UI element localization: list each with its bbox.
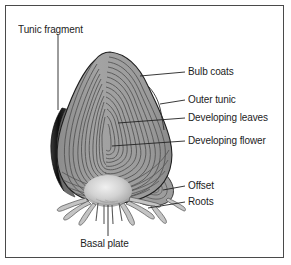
label-developing-leaves: Developing leaves [188,112,268,123]
label-roots: Roots [188,196,214,207]
label-tunic-fragment: Tunic fragment [18,24,83,35]
label-outer-tunic: Outer tunic [188,94,236,105]
bulb-illustration [0,0,291,265]
leader-outer-tunic [160,100,185,104]
label-offset: Offset [188,180,214,191]
label-developing-flower: Developing flower [188,135,266,146]
basal-plate-shape [84,175,132,207]
bulb-diagram-figure: Tunic fragment Bulb coats Outer tunic De… [0,0,291,265]
leader-bulb-coats [140,72,185,76]
label-basal-plate: Basal plate [80,238,128,249]
label-bulb-coats: Bulb coats [188,66,234,77]
